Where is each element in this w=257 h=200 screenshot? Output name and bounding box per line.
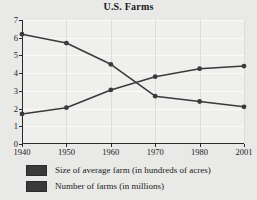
x-axis-tick-label: 1940 xyxy=(14,148,31,157)
x-axis-tick-label: 1980 xyxy=(191,148,208,157)
gridline-vertical xyxy=(244,20,245,144)
data-point-marker xyxy=(197,66,202,71)
x-axis-tick-label: 1960 xyxy=(102,148,119,157)
legend-item: Size of average farm (in hundreds of acr… xyxy=(26,162,251,178)
legend-swatch-icon xyxy=(26,165,47,176)
data-series xyxy=(20,64,247,117)
y-axis-tick-label: 1 xyxy=(14,122,18,131)
y-axis-tick-label: 4 xyxy=(14,69,18,78)
legend-item: Number of farms (in millions) xyxy=(26,178,251,194)
data-point-marker xyxy=(64,105,69,110)
data-point-marker xyxy=(20,111,25,116)
data-point-marker xyxy=(153,94,158,99)
y-axis-tick-label: 7 xyxy=(14,16,18,25)
y-axis-tick-label: 6 xyxy=(14,34,18,43)
data-point-marker xyxy=(242,104,247,109)
x-axis-tick-label: 1950 xyxy=(58,148,75,157)
legend-item-label: Number of farms (in millions) xyxy=(55,181,164,191)
legend-swatch-icon xyxy=(26,181,47,192)
series-line xyxy=(22,66,244,114)
x-axis-tick-label: 1970 xyxy=(147,148,164,157)
data-series xyxy=(20,32,247,109)
data-point-marker xyxy=(153,74,158,79)
legend-item-label: Size of average farm (in hundreds of acr… xyxy=(55,165,211,175)
y-axis-tick-label: 2 xyxy=(14,105,18,114)
data-point-marker xyxy=(108,88,113,93)
data-point-marker xyxy=(20,32,25,37)
data-point-marker xyxy=(197,99,202,104)
y-axis-tick-label: 3 xyxy=(14,87,18,96)
series-layer xyxy=(22,20,244,144)
chart-legend: Size of average farm (in hundreds of acr… xyxy=(26,162,251,194)
x-axis-tick-label: 2001 xyxy=(236,148,253,157)
data-point-marker xyxy=(108,62,113,67)
plot-area: 01234567 194019501960197019802001 xyxy=(22,20,244,144)
series-line xyxy=(22,34,244,107)
y-axis-tick-label: 5 xyxy=(14,51,18,60)
chart-title: U.S. Farms xyxy=(0,1,257,12)
data-point-marker xyxy=(64,41,69,46)
chart-figure: U.S. Farms 01234567 19401950196019701980… xyxy=(0,0,257,200)
data-point-marker xyxy=(242,64,247,69)
